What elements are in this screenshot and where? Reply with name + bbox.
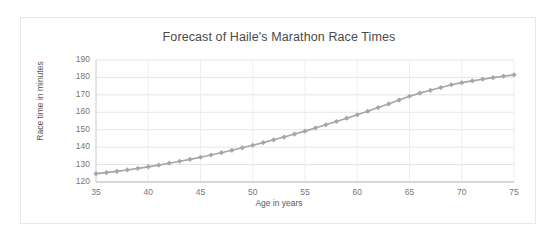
y-tick-label: 160 xyxy=(60,106,90,116)
x-tick-label: 75 xyxy=(499,187,529,197)
x-tick-label: 55 xyxy=(290,187,320,197)
x-tick-label: 35 xyxy=(81,187,111,197)
chart-frame: Forecast of Haile's Marathon Race Times … xyxy=(20,17,536,224)
y-tick-label: 170 xyxy=(60,89,90,99)
y-tick-label: 150 xyxy=(60,124,90,134)
y-tick-label: 180 xyxy=(60,71,90,81)
x-tick-label: 45 xyxy=(186,187,216,197)
plot-area: Race time in minutes Age in years 120130… xyxy=(21,18,537,225)
y-tick-label: 140 xyxy=(60,141,90,151)
y-tick-label: 120 xyxy=(60,176,90,186)
y-tick-label: 190 xyxy=(60,54,90,64)
x-tick-label: 70 xyxy=(447,187,477,197)
x-axis-title: Age in years xyxy=(21,198,537,208)
x-tick-label: 65 xyxy=(395,187,425,197)
x-tick-label: 40 xyxy=(133,187,163,197)
x-tick-label: 60 xyxy=(342,187,372,197)
x-tick-label: 50 xyxy=(238,187,268,197)
y-axis-title: Race time in minutes xyxy=(35,41,45,161)
y-tick-label: 130 xyxy=(60,159,90,169)
